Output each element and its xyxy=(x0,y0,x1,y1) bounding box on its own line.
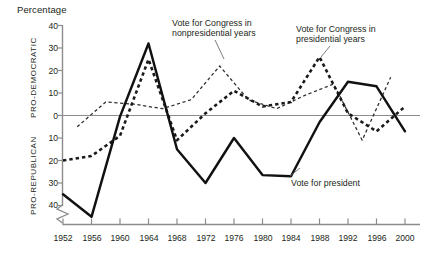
leader-line-presidential xyxy=(321,46,330,57)
axes xyxy=(57,25,420,225)
x-axis-ticks xyxy=(63,219,405,225)
series-line-congress-presidential xyxy=(63,57,405,161)
leader-line-nonpresidential xyxy=(215,40,224,59)
chart-plot-area xyxy=(0,0,431,255)
chart-figure: Percentage PRO-DEMOCRATIC PRO-REPUBLICAN… xyxy=(0,0,431,255)
series-line-vote-for-president xyxy=(63,44,405,217)
y-axis-ticks xyxy=(57,26,63,206)
